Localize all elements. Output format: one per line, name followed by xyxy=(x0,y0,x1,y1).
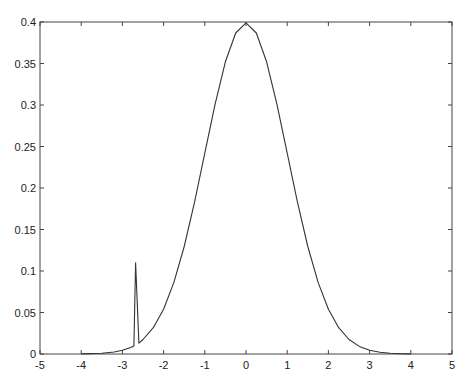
y-tick-label: 0.35 xyxy=(15,58,36,70)
plot-area xyxy=(40,22,452,354)
x-tick-label: 5 xyxy=(449,359,455,371)
x-tick-label: 4 xyxy=(408,359,414,371)
y-tick-label: 0.4 xyxy=(21,16,36,28)
x-tick-label: 1 xyxy=(284,359,290,371)
y-tick-label: 0.2 xyxy=(21,182,36,194)
x-tick-label: 3 xyxy=(367,359,373,371)
y-tick-label: 0.3 xyxy=(21,99,36,111)
y-tick-label: 0.1 xyxy=(21,265,36,277)
x-tick-label: -2 xyxy=(159,359,169,371)
y-tick-label: 0.15 xyxy=(15,224,36,236)
x-tick-label: -5 xyxy=(35,359,45,371)
x-tick-label: 0 xyxy=(243,359,249,371)
y-tick-label: 0.25 xyxy=(15,141,36,153)
x-tick-label: -3 xyxy=(118,359,128,371)
x-tick-label: -4 xyxy=(76,359,86,371)
y-tick-label: 0 xyxy=(30,348,36,360)
y-tick-label: 0.05 xyxy=(15,307,36,319)
x-tick-label: -1 xyxy=(200,359,210,371)
x-tick-label: 2 xyxy=(325,359,331,371)
chart: -5-4-3-2-1012345 00.050.10.150.20.250.30… xyxy=(0,0,472,384)
